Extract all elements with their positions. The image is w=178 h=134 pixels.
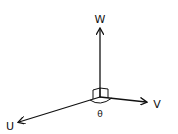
v-label: V: [153, 98, 161, 111]
axes-diagram: W V U θ: [0, 0, 178, 134]
theta-label: θ: [97, 109, 103, 119]
w-label: W: [95, 13, 106, 26]
u-label: U: [6, 120, 14, 133]
u-axis: [19, 97, 100, 122]
